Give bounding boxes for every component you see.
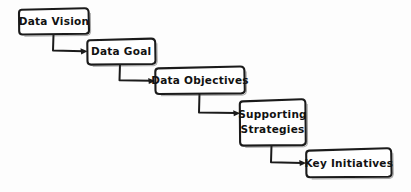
edge-goal-to-objectives — [120, 64, 156, 84]
node-supporting-strategies-label-line1: Supporting — [238, 108, 307, 120]
node-key-initiatives[interactable]: Key Initiatives — [304, 148, 393, 179]
node-data-vision[interactable]: Data Vision — [19, 8, 91, 36]
edge-strategies-to-initiatives-path — [271, 145, 302, 163]
edge-vision-to-goal-path — [53, 35, 84, 52]
flowchart-svg: Data Vision Data Goal Data Objectives Su… — [0, 0, 411, 192]
edge-objectives-to-strategies-path — [199, 93, 236, 113]
node-data-goal[interactable]: Data Goal — [87, 39, 157, 67]
node-data-objectives-label: Data Objectives — [151, 74, 249, 86]
edge-vision-to-goal — [53, 35, 88, 55]
node-data-objectives[interactable]: Data Objectives — [151, 66, 249, 95]
edge-strategies-to-initiatives — [271, 145, 306, 166]
edge-goal-to-objectives-path — [120, 64, 152, 81]
diagram-canvas: Data Vision Data Goal Data Objectives Su… — [0, 0, 411, 192]
edge-objectives-to-strategies — [199, 93, 240, 116]
node-data-goal-label: Data Goal — [91, 45, 151, 57]
node-data-vision-label: Data Vision — [19, 15, 89, 27]
node-supporting-strategies[interactable]: Supporting Strategies — [238, 99, 307, 147]
node-key-initiatives-label: Key Initiatives — [304, 157, 393, 169]
node-supporting-strategies-label-line2: Strategies — [241, 123, 305, 135]
